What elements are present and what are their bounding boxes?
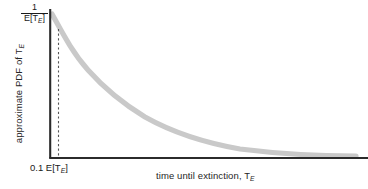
fraction-denominator-subscript: E [38, 17, 42, 24]
x-axis-title-subscript: E [250, 175, 255, 182]
fraction-denominator: E[TE] [21, 14, 48, 23]
x-axis-tick-label: 0.1 E[TE] [30, 162, 68, 173]
y-axis-title-subscript: E [17, 44, 24, 49]
pdf-decay-curve [52, 14, 356, 156]
y-axis-title: approximate PDF of TE [13, 24, 24, 164]
x-axis-title: time until extinction, TE [156, 170, 255, 181]
chart-figure: 1 E[TE] approximate PDF of TE 0.1 E[TE] … [0, 0, 368, 189]
fraction-numerator: 1 [21, 3, 48, 12]
y-axis-tick-label: 1 E[TE] [21, 3, 48, 24]
plot-area [0, 0, 368, 189]
x-axis-tick-subscript: E [61, 167, 66, 174]
